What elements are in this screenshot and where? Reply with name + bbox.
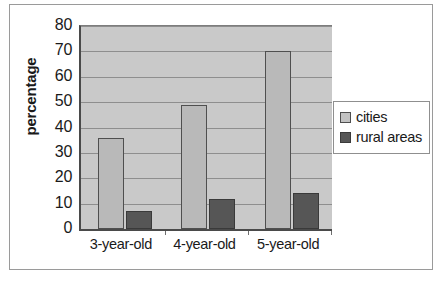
bar-group	[165, 26, 249, 229]
bar-cities-4-year-old[interactable]	[181, 105, 207, 229]
y-tick-label: 60	[38, 68, 72, 84]
y-tick-label: 50	[38, 93, 72, 109]
legend-swatch-rural-areas	[340, 132, 351, 143]
chart-legend: cities rural areas	[333, 101, 430, 154]
legend-item-cities[interactable]: cities	[340, 107, 425, 127]
x-tick-label: 4-year-old	[163, 236, 247, 252]
bar-rural-areas-4-year-old[interactable]	[209, 199, 235, 229]
bar-group	[81, 26, 165, 229]
legend-item-rural-areas[interactable]: rural areas	[340, 127, 425, 147]
y-tick-label: 80	[38, 17, 72, 33]
x-tick-label: 3-year-old	[79, 236, 163, 252]
legend-label-cities: cities	[356, 109, 387, 125]
bar-group	[248, 26, 332, 229]
y-tick-label: 30	[38, 144, 72, 160]
y-tick-label: 40	[38, 119, 72, 135]
x-tick-label: 5-year-old	[246, 236, 330, 252]
y-axis-title: percentage	[22, 37, 39, 157]
y-tick-label: 0	[38, 220, 72, 236]
y-axis-tick-labels: 01020304050607080	[38, 17, 72, 229]
y-tick-label: 20	[38, 169, 72, 185]
x-axis-tick-labels: 3-year-old4-year-old5-year-old	[79, 236, 330, 258]
bar-cities-3-year-old[interactable]	[98, 138, 124, 229]
y-tick-label: 10	[38, 195, 72, 211]
plot-inner	[81, 26, 332, 229]
legend-label-rural-areas: rural areas	[356, 129, 422, 145]
bar-chart-figure: percentage 01020304050607080 3-year-old4…	[0, 0, 441, 283]
y-tick-label: 70	[38, 42, 72, 58]
bar-rural-areas-5-year-old[interactable]	[293, 193, 319, 229]
bar-rural-areas-3-year-old[interactable]	[126, 211, 152, 229]
bar-cities-5-year-old[interactable]	[265, 51, 291, 229]
x-axis-line	[79, 229, 332, 231]
plot-area	[79, 25, 332, 229]
legend-swatch-cities	[340, 112, 351, 123]
